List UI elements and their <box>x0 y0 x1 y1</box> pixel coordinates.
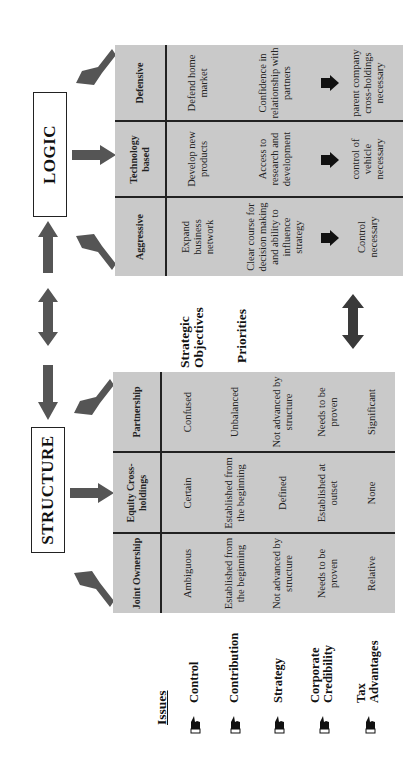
issue-item-contribution: Contribution <box>220 623 250 733</box>
logic-priority: Confidence in relationship with partners <box>235 47 315 119</box>
structure-cell: Defined <box>263 453 303 533</box>
logic-table: Aggressive Expand business network Clear… <box>115 45 403 276</box>
arrow-icon <box>70 373 115 423</box>
issue-item-strategy: Strategy <box>264 623 294 733</box>
logic-priority: Access to research and development <box>235 123 315 195</box>
double-arrow-icon <box>342 294 364 349</box>
arrow-icon <box>72 226 117 276</box>
issues-legend: Issues Control Contribution Strategy Cor… <box>140 623 407 733</box>
priorities-label: Priorities <box>235 293 249 363</box>
structure-cell: Not advanced by structure <box>263 372 303 452</box>
issue-label: Strategy <box>272 658 285 703</box>
black-arrow-icon <box>321 230 339 246</box>
logic-header-aggressive: Aggressive <box>117 198 163 276</box>
pointing-hand-icon <box>363 715 377 733</box>
structure-cell: Needs to be proven <box>308 534 348 613</box>
logic-priority: Clear course for decision making and abi… <box>235 200 315 274</box>
issue-label: Corporate Credibility <box>309 628 335 703</box>
double-arrow-icon <box>38 288 58 346</box>
strategic-objectives-label: Strategic Objectives <box>178 293 206 368</box>
structure-header-joint-ownership: Joint Ownership <box>115 534 159 613</box>
arrow-icon <box>72 43 117 93</box>
logic-header-defensive: Defensive <box>117 45 163 121</box>
black-arrow-icon <box>321 152 339 168</box>
logic-objective: Expand business network <box>170 202 225 272</box>
structure-cell: Unbalanced <box>210 372 260 452</box>
structure-title-box: STRUCTURE <box>31 427 65 553</box>
logic-objective: Defend home market <box>170 49 225 117</box>
structure-cell: Ambiguous <box>168 534 208 613</box>
arrow-icon <box>38 365 58 420</box>
pointing-hand-icon <box>272 715 286 733</box>
structure-cell: Relative <box>353 534 391 613</box>
arrow-icon <box>70 483 114 503</box>
issue-item-control: Control <box>180 623 210 733</box>
structure-cell: Certain <box>168 453 208 533</box>
structure-header-partnership: Partnership <box>115 372 159 452</box>
logic-outcome: Control necessary <box>343 202 393 272</box>
issue-item-tax-advantages: Tax Advantages <box>353 623 383 733</box>
arrow-icon <box>70 563 115 613</box>
issue-label: Contribution <box>228 633 241 703</box>
arrow-icon <box>38 221 58 273</box>
diagram-canvas: Issues Control Contribution Strategy Cor… <box>0 0 407 763</box>
logic-title-box: LOGIC <box>33 92 67 217</box>
structure-table: Joint Ownership Ambiguous Established fr… <box>113 372 395 613</box>
logic-header-technology-based: Technology based <box>117 122 163 197</box>
arrow-icon <box>72 145 116 165</box>
structure-cell: Established from the beginning <box>210 453 260 533</box>
structure-cell: Established at outset <box>308 453 348 533</box>
structure-cell: Established from the beginning <box>210 534 260 613</box>
structure-cell: None <box>353 453 391 533</box>
pointing-hand-icon <box>317 715 331 733</box>
structure-cell: Confused <box>168 372 208 452</box>
logic-outcome: parent company cross-holdings necessary <box>343 49 393 117</box>
logic-objective: Develop new products <box>170 125 225 193</box>
issue-item-corporate-credibility: Corporate Credibility <box>307 623 337 733</box>
structure-cell: Significant <box>353 372 391 452</box>
logic-outcome: control of vehicle necessary <box>343 125 393 193</box>
issues-heading: Issues <box>155 690 168 725</box>
structure-cell: Needs to be proven <box>308 372 348 452</box>
issue-label: Tax Advantages <box>355 628 381 703</box>
structure-cell: Not advanced by structure <box>263 534 303 613</box>
issue-label: Control <box>188 662 201 703</box>
pointing-hand-icon <box>228 715 242 733</box>
pointing-hand-icon <box>188 715 202 733</box>
black-arrow-icon <box>321 75 339 91</box>
structure-header-equity-cross-holdings: Equity Cross-holdings <box>115 453 159 533</box>
